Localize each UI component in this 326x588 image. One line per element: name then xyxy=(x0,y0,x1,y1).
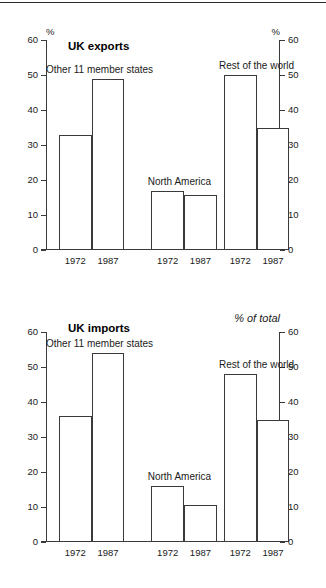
bar xyxy=(151,191,184,251)
y-tick-left-40 xyxy=(41,110,46,111)
y-tick-left-50 xyxy=(41,367,46,368)
plot-area: 00101020203030404050506060 Other 11 memb… xyxy=(46,40,280,250)
group-label: Other 11 member states xyxy=(46,65,153,75)
y-ticklabel-right-60: 60 xyxy=(288,327,299,337)
y-tick-left-60 xyxy=(41,332,46,333)
x-ticklabel: 1972 xyxy=(65,256,86,266)
y-ticklabel-left-10: 10 xyxy=(27,502,38,512)
y-ticklabel-left-30: 30 xyxy=(27,140,38,150)
y-ticklabel-right-30: 30 xyxy=(288,140,299,150)
y-tick-left-10 xyxy=(41,507,46,508)
y-ticklabel-right-40: 40 xyxy=(288,397,299,407)
y-ticklabel-left-10: 10 xyxy=(27,210,38,220)
group-label: North America xyxy=(148,472,211,482)
y-ticklabel-left-60: 60 xyxy=(27,327,38,337)
y-tick-right-60 xyxy=(280,40,285,41)
y-ticklabel-left-0: 0 xyxy=(33,245,38,255)
bar xyxy=(224,75,257,250)
y-tick-left-20 xyxy=(41,180,46,181)
y-tick-left-30 xyxy=(41,437,46,438)
chart-uk-exports: % % UK exports 0010102020303040405050606… xyxy=(0,14,326,288)
y-ticklabel-left-50: 50 xyxy=(27,70,38,80)
y-tick-left-40 xyxy=(41,402,46,403)
x-ticklabel: 1972 xyxy=(157,256,178,266)
group-label: Rest of the world xyxy=(219,61,294,71)
y-tick-right-60 xyxy=(280,332,285,333)
x-axis-labels: 197219871972198719721987 xyxy=(46,256,280,270)
bar xyxy=(92,79,125,251)
bar xyxy=(257,128,290,251)
x-ticklabel: 1987 xyxy=(97,256,118,266)
y-ticklabel-left-0: 0 xyxy=(33,537,38,547)
y-axis-unit-right: % of total xyxy=(234,312,280,324)
bar xyxy=(184,195,217,250)
y-axis-unit-left: % xyxy=(46,26,54,37)
bar xyxy=(59,135,92,251)
bar xyxy=(151,486,184,542)
x-ticklabel: 1987 xyxy=(190,548,211,558)
y-ticklabel-right-50: 50 xyxy=(288,70,299,80)
y-ticklabel-left-60: 60 xyxy=(27,35,38,45)
x-ticklabel: 1987 xyxy=(262,256,283,266)
group-label: Other 11 member states xyxy=(46,339,153,349)
x-ticklabel: 1972 xyxy=(157,548,178,558)
y-ticklabel-right-30: 30 xyxy=(288,432,299,442)
y-tick-left-0 xyxy=(41,250,46,251)
group-label: Rest of the world xyxy=(219,360,294,370)
bar xyxy=(257,420,290,543)
bar xyxy=(59,416,92,542)
y-axis-unit-right: % xyxy=(272,26,280,37)
x-ticklabel: 1972 xyxy=(65,548,86,558)
y-axis-left xyxy=(46,332,47,542)
plot-area: 00101020203030404050506060 Other 11 memb… xyxy=(46,332,280,542)
y-ticklabel-right-20: 20 xyxy=(288,467,299,477)
group-label: North America xyxy=(148,177,211,187)
figure-page: % % UK exports 0010102020303040405050606… xyxy=(0,0,326,588)
y-tick-left-10 xyxy=(41,215,46,216)
bar xyxy=(92,353,125,542)
header-rule xyxy=(0,2,326,3)
chart-uk-imports: % of total UK imports 001010202030304040… xyxy=(0,306,326,588)
y-tick-right-40 xyxy=(280,402,285,403)
y-tick-right-50 xyxy=(280,75,285,76)
bar xyxy=(224,374,257,542)
x-ticklabel: 1987 xyxy=(190,256,211,266)
x-ticklabel: 1987 xyxy=(97,548,118,558)
y-tick-left-60 xyxy=(41,40,46,41)
x-axis-labels: 197219871972198719721987 xyxy=(46,548,280,562)
x-ticklabel: 1987 xyxy=(262,548,283,558)
y-tick-left-30 xyxy=(41,145,46,146)
x-ticklabel: 1972 xyxy=(230,548,251,558)
y-ticklabel-right-10: 10 xyxy=(288,210,299,220)
y-tick-right-40 xyxy=(280,110,285,111)
x-ticklabel: 1972 xyxy=(230,256,251,266)
y-ticklabel-right-20: 20 xyxy=(288,175,299,185)
y-ticklabel-left-50: 50 xyxy=(27,362,38,372)
y-ticklabel-left-40: 40 xyxy=(27,397,38,407)
y-ticklabel-right-40: 40 xyxy=(288,105,299,115)
y-ticklabel-left-20: 20 xyxy=(27,467,38,477)
y-ticklabel-left-20: 20 xyxy=(27,175,38,185)
bar xyxy=(184,505,217,542)
y-ticklabel-right-60: 60 xyxy=(288,35,299,45)
y-ticklabel-left-30: 30 xyxy=(27,432,38,442)
y-tick-left-50 xyxy=(41,75,46,76)
y-ticklabel-right-10: 10 xyxy=(288,502,299,512)
y-tick-left-0 xyxy=(41,542,46,543)
y-tick-left-20 xyxy=(41,472,46,473)
y-ticklabel-left-40: 40 xyxy=(27,105,38,115)
